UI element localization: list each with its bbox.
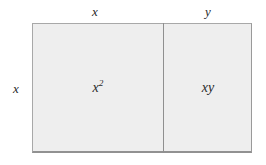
- left-cell-exponent: 2: [99, 78, 104, 88]
- dimension-label-top-left: x: [58, 5, 132, 18]
- dimension-label-top-right: y: [171, 5, 245, 18]
- dimension-label-left: x: [4, 82, 28, 95]
- right-cell-label: xy: [202, 81, 214, 95]
- right-cell-region: xy: [164, 24, 252, 152]
- left-cell-region: x2: [33, 24, 163, 152]
- left-cell-label: x2: [93, 81, 104, 95]
- area-model-diagram: x2 xy x y x: [0, 0, 266, 165]
